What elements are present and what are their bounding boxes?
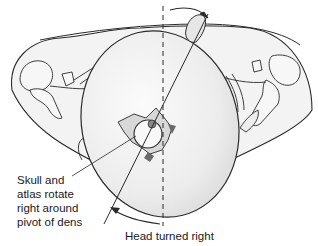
rotation-label-line2: atlas rotate — [17, 187, 82, 201]
rotation-label-line3: right around — [17, 201, 82, 215]
head-turned-label: Head turned right — [125, 229, 214, 243]
rotation-label-line4: pivot of dens — [17, 215, 82, 229]
rotation-label: Skull and atlas rotate right around pivo… — [17, 173, 82, 229]
rotation-label-line1: Skull and — [17, 173, 82, 187]
